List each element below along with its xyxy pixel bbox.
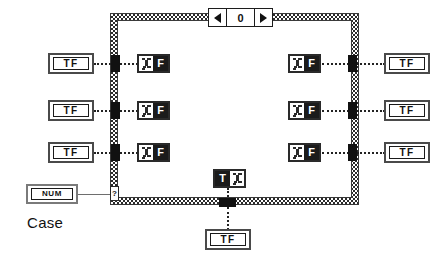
local-variable-value: F: [153, 145, 168, 160]
boolean-terminal-label: TF: [53, 57, 89, 70]
boolean-terminal-right-3[interactable]: TF: [384, 142, 430, 163]
local-variable-icon: [290, 103, 304, 118]
local-variable-value: T: [215, 171, 230, 186]
local-variable-icon: [290, 56, 304, 71]
tunnel-left-3[interactable]: [111, 144, 120, 161]
right-arrow-icon: [260, 13, 267, 23]
local-variable-right-3[interactable]: F: [288, 143, 321, 162]
wire-left-2-out[interactable]: [120, 110, 138, 112]
local-variable-bottom[interactable]: T: [213, 169, 246, 188]
case-selector-value[interactable]: 0: [227, 9, 254, 26]
local-variable-value: F: [153, 56, 168, 71]
case-selector[interactable]: 0: [208, 8, 273, 27]
boolean-terminal-label: TF: [389, 146, 425, 159]
local-variable-icon: [139, 56, 153, 71]
boolean-terminal-label: TF: [389, 104, 425, 117]
local-variable-icon: [290, 145, 304, 160]
wire-left-1-out[interactable]: [120, 63, 138, 65]
local-variable-right-2[interactable]: F: [288, 101, 321, 120]
wire-right-2-in[interactable]: [322, 110, 349, 112]
numeric-control-terminal[interactable]: NUM: [26, 184, 78, 204]
local-variable-icon: [230, 171, 244, 186]
wire-right-1-in[interactable]: [322, 63, 349, 65]
tunnel-bottom[interactable]: [219, 198, 236, 207]
diagram-caption: Case: [27, 215, 63, 230]
boolean-terminal-label: TF: [53, 146, 89, 159]
wire-right-3-in[interactable]: [322, 152, 349, 154]
local-variable-icon: [139, 145, 153, 160]
tunnel-right-3[interactable]: [348, 144, 357, 161]
wire-left-3-out[interactable]: [120, 152, 138, 154]
wire-right-3-out[interactable]: [357, 152, 385, 154]
local-variable-left-2[interactable]: F: [137, 101, 170, 120]
case-selector-prev-button[interactable]: [209, 9, 227, 26]
tunnel-left-2[interactable]: [111, 102, 120, 119]
local-variable-value: F: [304, 56, 319, 71]
tunnel-right-2[interactable]: [348, 102, 357, 119]
local-variable-left-1[interactable]: F: [137, 54, 170, 73]
boolean-terminal-left-1[interactable]: TF: [48, 53, 94, 74]
wire-bottom-lower[interactable]: [227, 207, 229, 230]
local-variable-right-1[interactable]: F: [288, 54, 321, 73]
wire-right-2-out[interactable]: [357, 110, 385, 112]
tunnel-left-1[interactable]: [111, 55, 120, 72]
boolean-terminal-label: TF: [210, 233, 246, 246]
tunnel-right-1[interactable]: [348, 55, 357, 72]
boolean-terminal-left-3[interactable]: TF: [48, 142, 94, 163]
numeric-control-label: NUM: [31, 188, 73, 200]
boolean-terminal-right-2[interactable]: TF: [384, 100, 430, 121]
case-selector-next-button[interactable]: [254, 9, 272, 26]
boolean-terminal-right-1[interactable]: TF: [384, 53, 430, 74]
local-variable-left-3[interactable]: F: [137, 143, 170, 162]
boolean-terminal-label: TF: [389, 57, 425, 70]
local-variable-icon: [139, 103, 153, 118]
boolean-terminal-bottom[interactable]: TF: [205, 229, 251, 250]
case-selector-terminal[interactable]: ?: [110, 186, 119, 201]
left-arrow-icon: [214, 13, 221, 23]
wire-case-selector[interactable]: [78, 194, 111, 195]
boolean-terminal-left-2[interactable]: TF: [48, 100, 94, 121]
block-diagram-canvas: 0 TF F TF: [0, 0, 443, 272]
local-variable-value: F: [304, 103, 319, 118]
local-variable-value: F: [153, 103, 168, 118]
boolean-terminal-label: TF: [53, 104, 89, 117]
wire-right-1-out[interactable]: [357, 63, 385, 65]
local-variable-value: F: [304, 145, 319, 160]
